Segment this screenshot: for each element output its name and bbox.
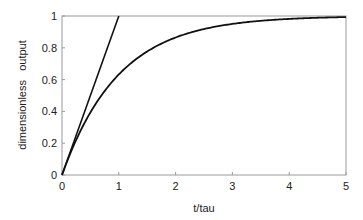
x-tick-label: 5 [343, 180, 349, 192]
x-tick-label: 3 [229, 180, 235, 192]
y-tick-label: 0.6 [42, 74, 57, 86]
x-axis-label: t/tau [193, 202, 214, 214]
y-tick-label: 0.8 [42, 42, 57, 54]
y-axis-label: dimensionless output [16, 40, 28, 149]
x-tick-label: 2 [173, 180, 179, 192]
x-tick-label: 4 [286, 180, 292, 192]
x-tick-label: 1 [116, 180, 122, 192]
response-curve [62, 17, 346, 175]
y-tick-label: 0.4 [42, 105, 57, 117]
x-tick-label: 0 [59, 180, 65, 192]
tangent-line [62, 16, 119, 175]
plot-area-border [62, 16, 346, 175]
y-tick-label: 0 [51, 169, 57, 181]
series-lines [62, 16, 346, 175]
y-tick-label: 1 [51, 10, 57, 22]
chart: 01234500.20.40.60.81 t/tau dimensionless… [0, 0, 363, 220]
y-tick-label: 0.2 [42, 137, 57, 149]
plot-frame [62, 16, 346, 175]
